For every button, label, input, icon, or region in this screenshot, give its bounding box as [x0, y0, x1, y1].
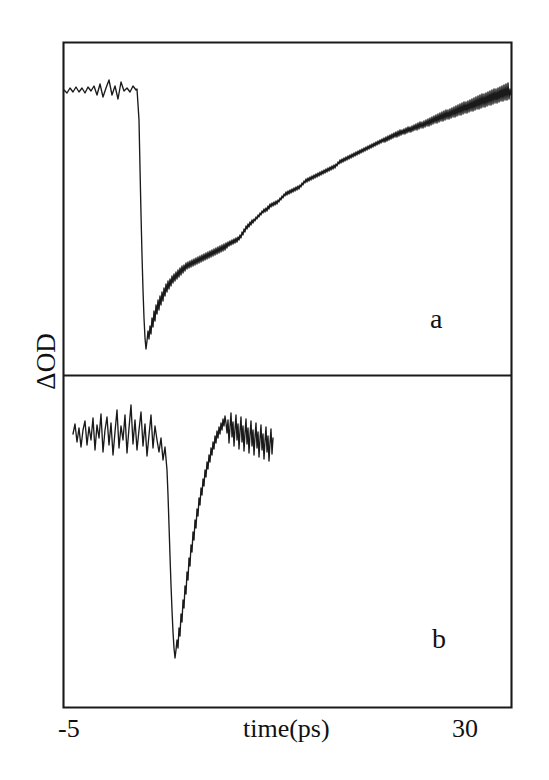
- plot-canvas: [0, 0, 549, 780]
- trace-line-a: [64, 80, 511, 349]
- x-axis-max-label: 30: [452, 716, 478, 742]
- figure-root: ΔOD -5 time(ps) 30 a b: [0, 0, 549, 780]
- trace-panel-b: [73, 405, 273, 658]
- x-axis-min-label: -5: [58, 716, 80, 742]
- plot-frame: [64, 43, 512, 708]
- panel-label-a: a: [430, 305, 442, 333]
- panel-label-b: b: [432, 625, 446, 653]
- x-axis-title: time(ps): [243, 716, 330, 742]
- y-axis-label: ΔOD: [33, 302, 60, 422]
- trace-line-b: [73, 405, 273, 658]
- trace-panel-a: [64, 80, 511, 349]
